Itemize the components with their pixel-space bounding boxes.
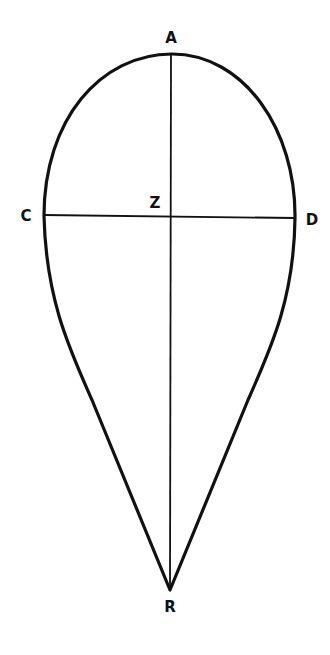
chord-CD (44, 215, 295, 218)
teardrop-diagram (0, 0, 330, 655)
label-R: R (164, 600, 176, 615)
label-C: C (20, 209, 31, 224)
axis-AR (170, 54, 171, 590)
label-A: A (165, 31, 177, 46)
label-D: D (306, 213, 318, 228)
label-Z: Z (150, 196, 161, 211)
